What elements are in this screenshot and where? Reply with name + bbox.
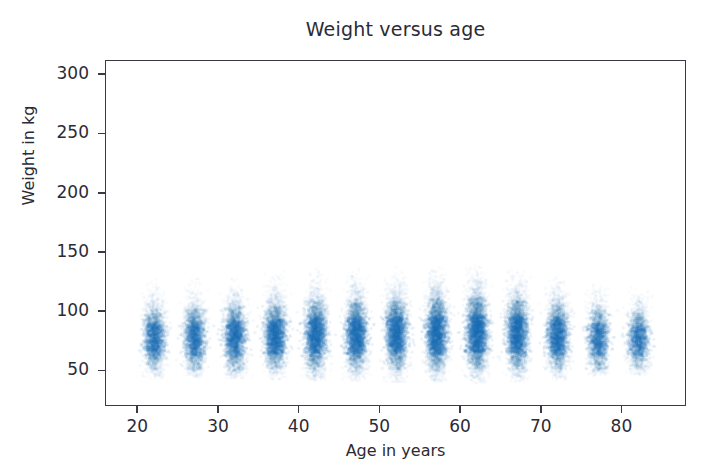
- x-tick-mark: [621, 406, 623, 413]
- x-tick-label: 70: [511, 416, 571, 436]
- y-axis-label: Weight in kg: [19, 66, 38, 246]
- x-tick-mark: [298, 406, 300, 413]
- x-tick-mark: [136, 406, 138, 413]
- x-tick-mark: [459, 406, 461, 413]
- plot-area: [105, 60, 686, 406]
- scatter-points-layer: [106, 61, 686, 406]
- y-tick-mark: [98, 73, 105, 75]
- x-tick-label: 30: [188, 416, 248, 436]
- chart-title: Weight versus age: [105, 18, 686, 40]
- x-tick-label: 80: [591, 416, 651, 436]
- y-tick-mark: [98, 133, 105, 135]
- x-tick-label: 60: [430, 416, 490, 436]
- x-tick-mark: [540, 406, 542, 413]
- y-tick-mark: [98, 310, 105, 312]
- x-axis-label: Age in years: [105, 441, 686, 460]
- x-tick-mark: [217, 406, 219, 413]
- y-tick-mark: [98, 192, 105, 194]
- y-tick-mark: [98, 251, 105, 253]
- y-tick-label: 50: [19, 359, 89, 379]
- x-tick-label: 20: [107, 416, 167, 436]
- x-tick-label: 40: [269, 416, 329, 436]
- y-tick-mark: [98, 370, 105, 372]
- matplotlib-figure: Weight versus age 50100150200250300 2030…: [0, 0, 718, 468]
- x-tick-label: 50: [349, 416, 409, 436]
- y-tick-label: 100: [19, 300, 89, 320]
- x-tick-mark: [379, 406, 381, 413]
